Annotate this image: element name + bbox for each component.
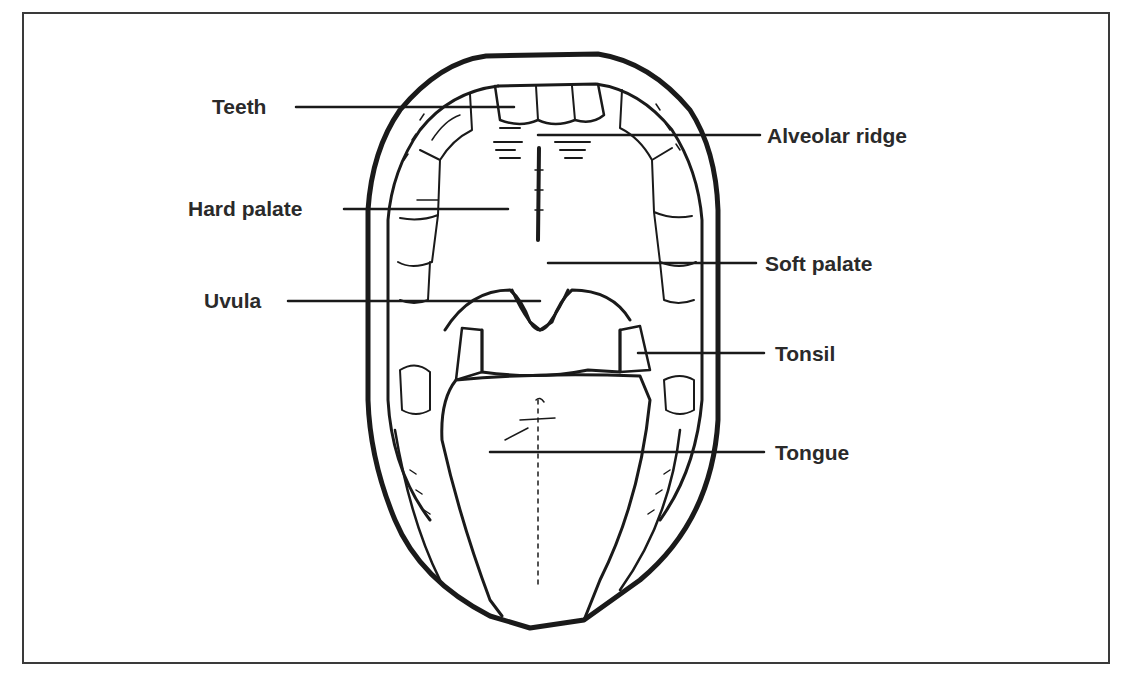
label-uvula: Uvula — [204, 290, 261, 311]
upper-right-teeth — [620, 90, 696, 303]
uvula-shape — [512, 290, 568, 330]
label-alveolar-ridge: Alveolar ridge — [767, 125, 907, 146]
label-tongue: Tongue — [775, 442, 849, 463]
tonsil-right — [620, 326, 650, 372]
tongue-outline — [442, 375, 650, 620]
palate-midline — [538, 148, 539, 240]
upper-left-teeth — [398, 94, 472, 303]
outer-lip-outline — [368, 54, 718, 628]
upper-front-teeth — [495, 84, 604, 124]
label-hard-palate: Hard palate — [188, 198, 302, 219]
palatal-rugae — [494, 128, 590, 158]
leader-lines — [288, 107, 764, 452]
soft-palate-arch — [445, 290, 630, 330]
label-soft-palate: Soft palate — [765, 253, 872, 274]
tonsil-left — [456, 328, 482, 380]
mouth-illustration — [0, 0, 1130, 684]
label-tonsil: Tonsil — [775, 343, 835, 364]
label-teeth: Teeth — [212, 96, 266, 117]
throat-opening — [482, 330, 620, 376]
